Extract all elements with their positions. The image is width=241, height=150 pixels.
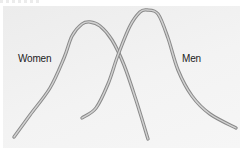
women-curve xyxy=(14,22,148,139)
distribution-curves-plot xyxy=(0,0,241,150)
women-label: Women xyxy=(18,53,51,64)
men-curve xyxy=(82,10,236,128)
men-label: Men xyxy=(182,53,201,64)
